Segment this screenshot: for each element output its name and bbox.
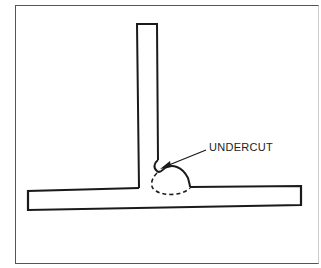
arrow-head-icon bbox=[160, 161, 171, 169]
horizontal-plate bbox=[28, 186, 301, 210]
undercut-label: UNDERCUT bbox=[209, 141, 273, 153]
weld-diagram bbox=[0, 0, 321, 268]
weld-penetration-dashed bbox=[152, 173, 190, 194]
